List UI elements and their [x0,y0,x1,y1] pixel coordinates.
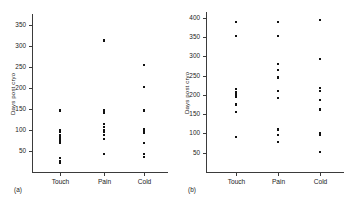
y-tick-label: 50 [182,149,200,156]
data-point [319,134,321,136]
y-tick-mark [29,88,32,89]
y-axis-line-b [206,12,207,172]
x-tick-mark [320,173,321,176]
data-point [277,76,279,78]
data-point [59,141,61,143]
data-point [277,90,279,92]
data-point [143,132,145,134]
y-tick-label: 300 [8,42,26,49]
y-tick-mark [29,46,32,47]
data-point [103,138,105,140]
y-tick-mark [203,114,206,115]
y-tick-label: 350 [182,33,200,40]
x-tick-mark [236,173,237,176]
panel-a: Days post cryo 50100150200250300350 Touc… [0,0,170,218]
y-tick-label: 350 [8,21,26,28]
data-point [59,162,61,164]
panel-tag-b: (b) [188,186,196,193]
data-point [235,136,237,138]
y-tick-label: 50 [8,147,26,154]
data-point [319,90,321,92]
data-point [103,112,105,114]
y-tick-label: 150 [8,105,26,112]
data-point [143,153,145,155]
data-point [143,156,145,158]
y-tick-label: 200 [182,91,200,98]
x-category-label-cold: Cold [302,178,339,185]
data-point [143,86,145,88]
x-category-label-pain: Pain [260,178,297,185]
x-axis-line-a [32,172,168,173]
y-tick-label: 250 [8,63,26,70]
y-tick-label: 100 [182,129,200,136]
y-tick-label: 100 [8,126,26,133]
data-point [319,19,321,21]
y-tick-label: 250 [182,72,200,79]
x-tick-mark [60,173,61,176]
y-tick-label: 300 [182,52,200,59]
data-point [59,131,61,133]
y-tick-mark [203,18,206,19]
y-tick-label: 200 [8,84,26,91]
y-axis-line-a [32,14,33,172]
x-tick-mark [144,173,145,176]
x-category-label-pain: Pain [86,178,123,185]
y-tick-mark [29,151,32,152]
data-point [235,35,237,37]
data-point [235,96,237,98]
data-point [143,109,145,111]
y-tick-label: 150 [182,110,200,117]
y-tick-mark [203,95,206,96]
data-point [319,58,321,60]
x-category-label-cold: Cold [126,178,163,185]
y-tick-mark [29,130,32,131]
data-point [103,134,105,136]
data-point [319,151,321,153]
y-tick-mark [29,67,32,68]
x-category-label-touch: Touch [218,178,255,185]
data-point [103,123,105,125]
data-point [235,111,237,113]
data-point [235,103,237,105]
data-point [277,97,279,99]
panel-b: Days post cryo 50100150200250300350400 T… [170,0,340,218]
data-point [277,128,279,130]
y-tick-mark [203,153,206,154]
x-tick-mark [278,173,279,176]
data-point [59,157,61,159]
y-tick-mark [203,133,206,134]
data-point [319,108,321,110]
data-point [277,134,279,136]
x-tick-mark [104,173,105,176]
panel-tag-a: (a) [14,186,22,193]
data-point [235,21,237,23]
data-point [103,153,105,155]
data-point [277,63,279,65]
y-tick-mark [203,56,206,57]
y-tick-mark [203,37,206,38]
y-tick-mark [29,109,32,110]
data-point [319,99,321,101]
y-tick-label: 400 [182,14,200,21]
data-point [103,39,105,41]
x-axis-line-b [206,172,344,173]
data-point [59,109,61,111]
data-point [277,35,279,37]
y-tick-mark [203,76,206,77]
data-point [143,142,145,144]
x-category-label-touch: Touch [42,178,79,185]
data-point [277,141,279,143]
data-point [277,69,279,71]
y-tick-mark [29,25,32,26]
data-point [277,21,279,23]
data-point [143,64,145,66]
